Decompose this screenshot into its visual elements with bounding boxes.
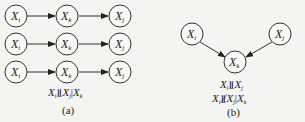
node-xj: Xj bbox=[109, 61, 131, 83]
marginal-independence-statement: Xi⫫Xj bbox=[219, 78, 243, 91]
node-xk: Xk bbox=[56, 5, 78, 27]
edge-xj-xk bbox=[246, 42, 272, 57]
node-xi: Xi bbox=[5, 61, 27, 83]
node-xk: Xk bbox=[56, 61, 78, 83]
node-xk: Xk bbox=[56, 33, 78, 55]
node-xj: Xj bbox=[269, 23, 291, 45]
node-xk: Xk bbox=[224, 51, 246, 73]
node-xj: Xj bbox=[109, 33, 131, 55]
diagram-canvas: Xi Xk Xj Xi Xk Xj Xi Xk bbox=[0, 0, 305, 122]
node-xi: Xi bbox=[5, 5, 27, 27]
node-xj: Xj bbox=[109, 5, 131, 27]
panel-a: Xi Xk Xj Xi Xk Xj Xi Xk bbox=[5, 5, 131, 117]
chain-row-2: Xi Xk Xj bbox=[5, 33, 131, 55]
chain-row-3: Xi Xk Xj bbox=[5, 61, 131, 83]
caption-a: (a) bbox=[62, 104, 75, 117]
node-xi: Xi bbox=[181, 23, 203, 45]
panel-b: Xi Xj Xk Xi⫫Xj Xi⫫̸Xj|Xk (b) bbox=[181, 23, 291, 119]
edge-xi-xk bbox=[200, 42, 225, 57]
caption-b: (b) bbox=[227, 106, 240, 119]
conditional-dependence-statement: Xi⫫̸Xj|Xk bbox=[211, 92, 247, 105]
independence-statement: Xi⫫Xj|Xk bbox=[47, 86, 83, 99]
chain-row-1: Xi Xk Xj bbox=[5, 5, 131, 27]
node-xi: Xi bbox=[5, 33, 27, 55]
